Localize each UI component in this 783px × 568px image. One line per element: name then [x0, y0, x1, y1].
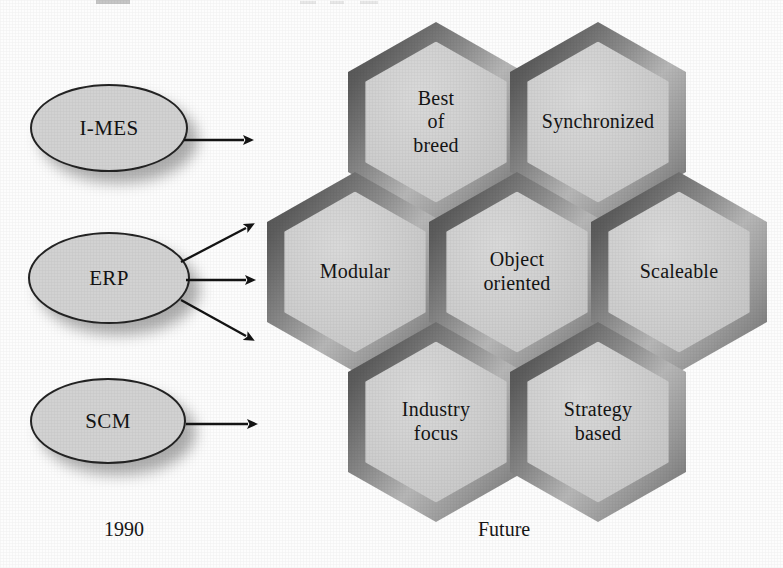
hexagon-label-line1: Strategy	[564, 398, 632, 422]
hexagon-label-line1: Industry	[402, 398, 470, 422]
hexagon-label-line3: breed	[413, 134, 458, 158]
hexagon-label-line1: Modular	[320, 260, 390, 284]
hexagon-label: Industry focus	[348, 322, 524, 522]
legacy-node-scm[interactable]: SCM	[30, 378, 186, 464]
arrow-erp-upper	[181, 228, 246, 262]
hexagon-label-line1: Scaleable	[640, 260, 718, 284]
hexagon-strategy-based[interactable]: Strategy based	[510, 322, 686, 522]
scan-artifact	[0, 0, 783, 12]
hexagon-label: Strategy based	[510, 322, 686, 522]
hexagon-industry-focus[interactable]: Industry focus	[348, 322, 524, 522]
legacy-node-label: I-MES	[79, 116, 138, 141]
diagram-canvas: I-MES ERP SCM Best of	[0, 0, 783, 568]
hexagon-label-line1: Best	[418, 87, 454, 111]
hexagon-label-line1: Synchronized	[542, 110, 654, 134]
hexagon-label-line2: oriented	[483, 272, 550, 296]
caption-legacy-year: 1990	[104, 518, 144, 541]
hexagon-label-line2: of	[427, 110, 444, 134]
hexagon-label-line2: focus	[414, 422, 458, 446]
legacy-node-i-mes[interactable]: I-MES	[30, 84, 188, 172]
legacy-node-label: ERP	[89, 266, 129, 291]
hexagon-label-line1: Object	[490, 248, 545, 272]
hexagon-label-line2: based	[575, 422, 622, 446]
legacy-node-label: SCM	[85, 409, 131, 434]
legacy-node-erp[interactable]: ERP	[28, 232, 190, 324]
